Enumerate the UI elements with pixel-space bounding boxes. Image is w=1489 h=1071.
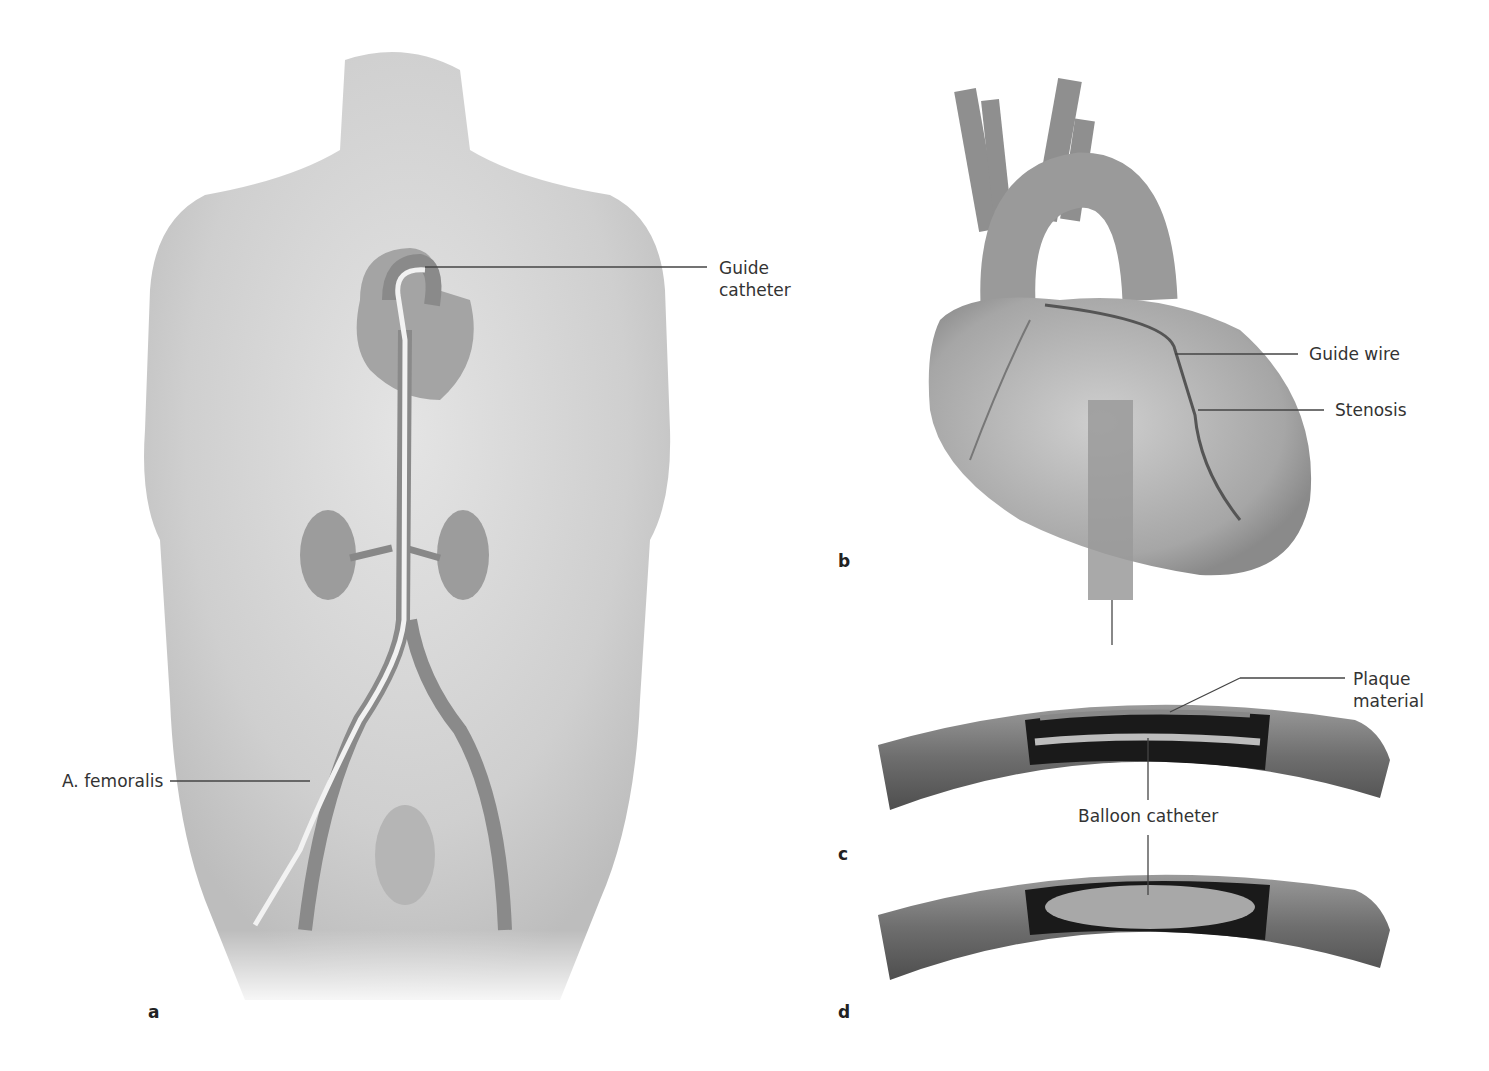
label-guide-wire: Guide wire <box>1309 343 1400 365</box>
panel-letter-c: c <box>838 844 848 864</box>
inflated-balloon <box>1045 885 1255 929</box>
label-plaque-material: Plaque material <box>1353 668 1424 712</box>
label-balloon-catheter: Balloon catheter <box>1078 805 1218 827</box>
panel-letter-d: d <box>838 1002 850 1022</box>
panel-letter-a: a <box>148 1002 159 1022</box>
label-guide-catheter-line2: catheter <box>719 279 791 301</box>
label-guide-catheter: Guide catheter <box>719 257 791 301</box>
label-stenosis: Stenosis <box>1335 399 1407 421</box>
kidney-left <box>437 510 489 600</box>
panel-b-heart: Guide wire Stenosis b <box>800 0 1489 660</box>
heart-illustration <box>800 0 1489 660</box>
panel-letter-b: b <box>838 551 850 571</box>
kidney-right <box>300 510 356 600</box>
label-plaque-line1: Plaque <box>1353 668 1424 690</box>
label-femoral: A. femoralis <box>62 770 163 792</box>
panel-a-body: Guide catheter A. femoralis a <box>0 0 800 1071</box>
label-plaque-line2: material <box>1353 690 1424 712</box>
label-guide-catheter-line1: Guide <box>719 257 791 279</box>
panel-cd-vessels: Plaque material Balloon catheter c d <box>800 660 1489 1071</box>
vessel-illustrations <box>800 660 1489 1071</box>
body-illustration <box>0 0 800 1071</box>
